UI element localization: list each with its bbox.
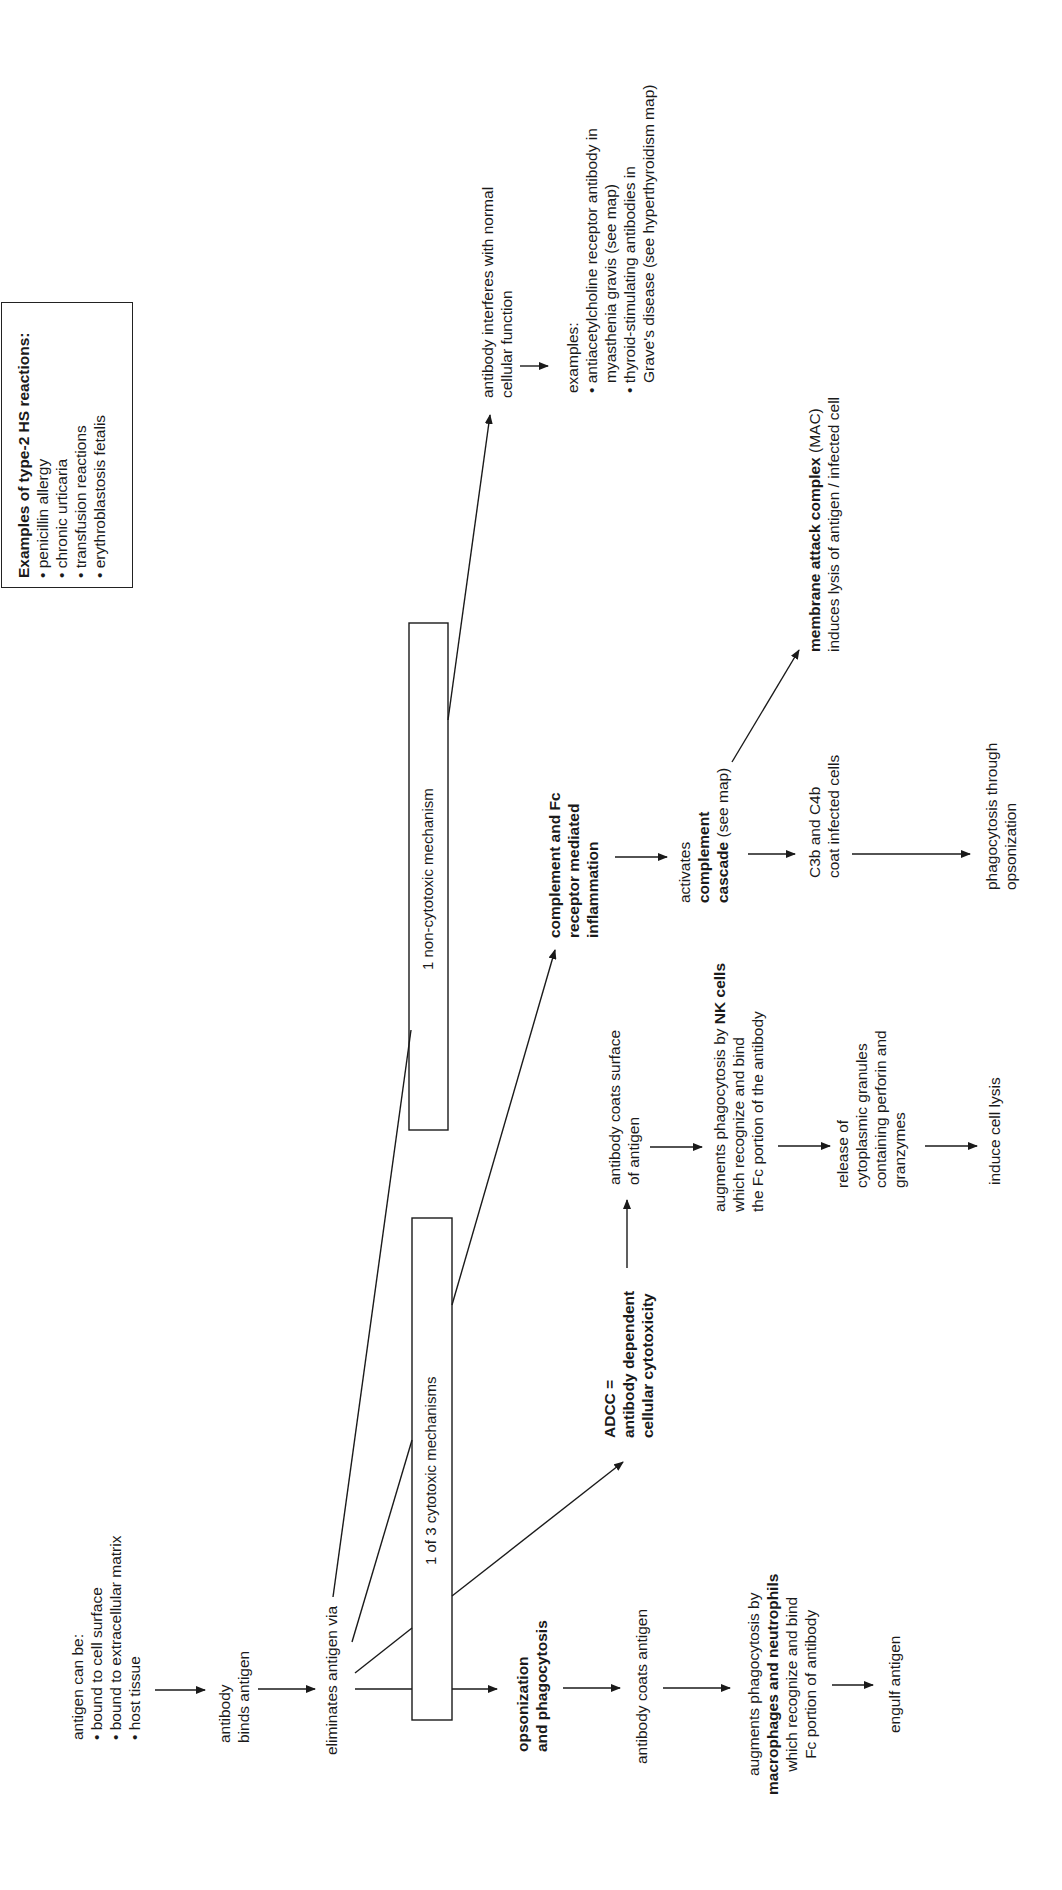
see-map-text: (see map) bbox=[714, 768, 731, 842]
c3b-text: C3b and C4b bbox=[805, 755, 824, 878]
adcc-coats-text: of antigen bbox=[624, 1030, 643, 1185]
antigen-item: • bound to extracellular matrix bbox=[106, 1536, 125, 1740]
macrophage-node: augments phagocytosis by macrophages and… bbox=[744, 1574, 820, 1795]
granules-text: granzymes bbox=[890, 1030, 909, 1188]
mac-node: membrane attack complex (MAC) induces ly… bbox=[805, 397, 843, 652]
binds-node: antibody binds antigen bbox=[215, 1651, 253, 1743]
opsonization-title: opsonization bbox=[513, 1620, 532, 1752]
example-myasthenia: myasthenia gravis (see map) bbox=[601, 85, 620, 393]
c3b-node: C3b and C4b coat infected cells bbox=[805, 755, 843, 878]
cascade-text-bold: cascade bbox=[714, 842, 731, 903]
example-item: • penicillin allergy bbox=[33, 333, 52, 579]
phago-text: phagocytosis through bbox=[982, 743, 1001, 890]
cell-lysis-node: induce cell lysis bbox=[985, 1077, 1004, 1185]
granules-text: cytoplasmic granules bbox=[852, 1030, 871, 1188]
cytotoxic-box-label: 1 of 3 cytotoxic mechanisms bbox=[422, 1377, 439, 1565]
nk-text: augments phagocytosis by bbox=[711, 1024, 728, 1212]
phago-opsonization-node: phagocytosis through opsonization bbox=[982, 743, 1020, 890]
example-graves: • thyroid-stimulating antibodies in bbox=[620, 85, 639, 393]
example-item: • transfusion reactions bbox=[71, 333, 90, 579]
engulf-text: engulf antigen bbox=[885, 1636, 904, 1733]
antigen-item: • bound to cell surface bbox=[87, 1536, 106, 1740]
nk-node: augments phagocytosis by NK cells which … bbox=[710, 963, 767, 1212]
complement-title: receptor mediated bbox=[564, 792, 583, 938]
antigen-item: • host tissue bbox=[125, 1536, 144, 1740]
antigen-node: antigen can be: • bound to cell surface … bbox=[68, 1536, 144, 1740]
phago-text: opsonization bbox=[1001, 743, 1020, 890]
macrophage-text: augments phagocytosis by bbox=[744, 1574, 763, 1795]
coats-antigen-text: antibody coats antigen bbox=[632, 1609, 651, 1764]
noncytotoxic-box-label: 1 non-cytotoxic mechanism bbox=[419, 788, 436, 970]
adcc-title: antibody dependent bbox=[619, 1291, 638, 1438]
example-item: • erythroblastosis fetalis bbox=[90, 333, 109, 579]
examples-box-text: Examples of type-2 HS reactions: • penic… bbox=[14, 333, 109, 579]
adcc-coats-text: antibody coats surface bbox=[605, 1030, 624, 1185]
nk-text: the Fc portion of the antibody bbox=[748, 963, 767, 1212]
engulf-node: engulf antigen bbox=[885, 1636, 904, 1733]
examples-label: examples: bbox=[563, 85, 582, 393]
complement-title: complement and Fc bbox=[545, 792, 564, 938]
granules-text: release of bbox=[833, 1030, 852, 1188]
examples-title: Examples of type-2 HS reactions: bbox=[14, 333, 33, 579]
adcc-title: cellular cytotoxicity bbox=[638, 1291, 657, 1438]
cell-lysis-text: induce cell lysis bbox=[985, 1077, 1004, 1185]
mac-abbrev: (MAC) bbox=[806, 408, 823, 457]
example-myasthenia: • antiacetylcholine receptor antibody in bbox=[582, 85, 601, 393]
granules-node: release of cytoplasmic granules containi… bbox=[833, 1030, 909, 1188]
binds-line: binds antigen bbox=[234, 1651, 253, 1743]
antigen-title: antigen can be: bbox=[68, 1536, 87, 1740]
opsonization-title: and phagocytosis bbox=[532, 1620, 551, 1752]
eliminates-node: eliminates antigen via bbox=[322, 1606, 341, 1755]
adcc-coats-node: antibody coats surface of antigen bbox=[605, 1030, 643, 1185]
macrophage-text: Fc portion of antibody bbox=[801, 1574, 820, 1795]
example-item: • chronic urticaria bbox=[52, 333, 71, 579]
coats-antigen-node: antibody coats antigen bbox=[632, 1609, 651, 1764]
granules-text: containing perforin and bbox=[871, 1030, 890, 1188]
mac-text: induces lysis of antigen / infected cell bbox=[824, 397, 843, 652]
c3b-text: coat infected cells bbox=[824, 755, 843, 878]
opsonization-node: opsonization and phagocytosis bbox=[513, 1620, 551, 1752]
binds-line: antibody bbox=[215, 1651, 234, 1743]
macrophage-text-bold: macrophages and neutrophils bbox=[763, 1574, 782, 1795]
complement-node: complement and Fc receptor mediated infl… bbox=[545, 792, 602, 938]
noncytotoxic-examples: examples: • antiacetylcholine receptor a… bbox=[563, 85, 658, 393]
adcc-node: ADCC = antibody dependent cellular cytot… bbox=[600, 1291, 657, 1438]
cascade-text: activates bbox=[675, 768, 694, 903]
interferes-text: antibody interferes with normal bbox=[478, 187, 497, 398]
macrophage-text: which recognize and bind bbox=[782, 1574, 801, 1795]
cascade-node: activates complement cascade (see map) bbox=[675, 768, 732, 903]
cascade-text-bold: complement bbox=[694, 768, 713, 903]
eliminates-label: eliminates antigen via bbox=[322, 1606, 341, 1755]
connector-lines bbox=[0, 0, 1062, 1890]
interferes-node: antibody interferes with normal cellular… bbox=[478, 187, 516, 398]
example-graves: Grave's disease (see hyperthyroidism map… bbox=[639, 85, 658, 393]
interferes-text: cellular function bbox=[497, 187, 516, 398]
complement-title: inflammation bbox=[583, 792, 602, 938]
mac-title: membrane attack complex bbox=[806, 457, 823, 652]
adcc-title: ADCC = bbox=[600, 1291, 619, 1438]
nk-text: which recognize and bind bbox=[729, 963, 748, 1212]
nk-cells-bold: NK cells bbox=[711, 963, 728, 1024]
